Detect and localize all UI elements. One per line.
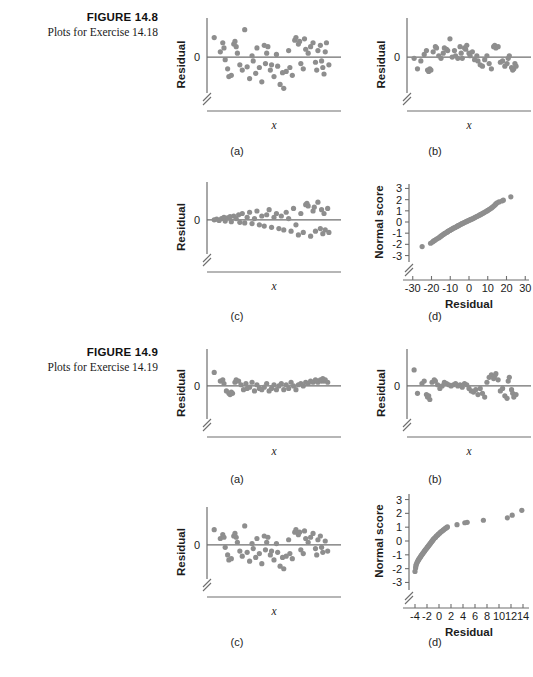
scatter-plot-fig14-8-c: 0Residualx: [165, 178, 345, 300]
panel-label-fig14-8-b: (b): [405, 145, 465, 157]
svg-text:10: 10: [482, 282, 494, 294]
svg-text:12: 12: [505, 610, 517, 622]
svg-text:Residual: Residual: [375, 369, 387, 417]
normal-probability-plot-fig14-8-d: 3210-1-2-3-30-20-100102030Normal scoreRe…: [363, 178, 533, 300]
svg-text:14: 14: [517, 610, 529, 622]
svg-text:Normal score: Normal score: [373, 185, 385, 259]
panel-label-fig14-9-c: (c): [207, 636, 267, 648]
svg-text:4: 4: [460, 610, 466, 622]
svg-text:Residual: Residual: [175, 203, 187, 251]
panel-label-fig14-9-b: (b): [405, 473, 465, 485]
panel-label-fig14-8-d: (d): [405, 310, 465, 322]
svg-text:-2: -2: [422, 610, 432, 622]
figure-14-8-caption-subtitle: Plots for Exercise 14.18: [18, 24, 158, 40]
figure-14-9-caption-subtitle: Plots for Exercise 14.19: [18, 359, 158, 375]
figure-14-8-caption-title: FIGURE 14.8: [18, 10, 158, 24]
normal-probability-plot-fig14-9-d: 3210-1-2-3-4-202468101214Normal scoreRes…: [363, 488, 533, 628]
scatter-plot-fig14-9-a: 0Residualx: [165, 345, 345, 465]
svg-text:20: 20: [500, 282, 512, 294]
figure-14-9-caption-title: FIGURE 14.9: [18, 345, 158, 359]
svg-text:Residual: Residual: [445, 298, 493, 310]
svg-text:-10: -10: [442, 282, 458, 294]
svg-text:8: 8: [484, 610, 490, 622]
panel-label-fig14-9-a: (a): [207, 473, 267, 485]
svg-text:1: 1: [396, 521, 402, 533]
svg-text:0: 0: [194, 51, 200, 63]
svg-text:-2: -2: [392, 563, 402, 575]
svg-text:0: 0: [466, 282, 472, 294]
chart-fig14-9-c: 0Residualx: [165, 503, 345, 625]
chart-fig14-9-a: 0Residualx: [165, 345, 345, 465]
svg-text:Residual: Residual: [175, 528, 187, 576]
svg-text:0: 0: [436, 610, 442, 622]
svg-text:Residual: Residual: [175, 369, 187, 417]
scatter-plot-fig14-9-b: 0Residualx: [365, 345, 533, 465]
svg-text:Residual: Residual: [175, 41, 187, 89]
svg-text:30: 30: [519, 282, 531, 294]
chart-fig14-9-d: 3210-1-2-3-4-202468101214Normal scoreRes…: [363, 488, 533, 628]
svg-text:x: x: [270, 119, 277, 131]
panel-label-fig14-8-c: (c): [207, 310, 267, 322]
figure-14-9-caption: FIGURE 14.9 Plots for Exercise 14.19: [18, 345, 158, 375]
svg-text:0: 0: [394, 380, 400, 392]
svg-text:2: 2: [448, 610, 454, 622]
chart-fig14-8-a: 0Residualx: [165, 14, 345, 139]
svg-text:0: 0: [396, 535, 402, 547]
svg-text:0: 0: [394, 51, 400, 63]
svg-text:-4: -4: [410, 610, 420, 622]
svg-text:0: 0: [194, 380, 200, 392]
svg-text:x: x: [465, 119, 472, 131]
chart-fig14-9-b: 0Residualx: [365, 345, 533, 465]
svg-text:Residual: Residual: [375, 41, 387, 89]
svg-text:x: x: [270, 445, 277, 457]
svg-text:x: x: [270, 280, 277, 292]
svg-text:0: 0: [194, 214, 200, 226]
svg-text:-20: -20: [424, 282, 440, 294]
panel-label-fig14-8-a: (a): [207, 145, 267, 157]
svg-text:0: 0: [194, 539, 200, 551]
svg-text:-3: -3: [392, 576, 402, 588]
svg-text:6: 6: [472, 610, 478, 622]
chart-fig14-8-c: 0Residualx: [165, 178, 345, 300]
figure-14-8-caption: FIGURE 14.8 Plots for Exercise 14.18: [18, 10, 158, 40]
svg-text:x: x: [465, 445, 472, 457]
svg-text:3: 3: [396, 494, 402, 506]
svg-text:10: 10: [493, 610, 505, 622]
chart-fig14-8-b: 0Residualx: [365, 14, 533, 139]
svg-text:2: 2: [396, 507, 402, 519]
chart-fig14-8-d: 3210-1-2-3-30-20-100102030Normal scoreRe…: [363, 178, 533, 300]
scatter-plot-fig14-8-b: 0Residualx: [365, 14, 533, 139]
svg-text:-30: -30: [405, 282, 421, 294]
svg-text:Normal score: Normal score: [373, 504, 385, 578]
svg-text:-1: -1: [392, 549, 402, 561]
panel-label-fig14-9-d: (d): [405, 636, 465, 648]
svg-text:x: x: [270, 605, 277, 617]
svg-text:-3: -3: [392, 250, 402, 262]
scatter-plot-fig14-8-a: 0Residualx: [165, 14, 345, 139]
scatter-plot-fig14-9-c: 0Residualx: [165, 503, 345, 625]
